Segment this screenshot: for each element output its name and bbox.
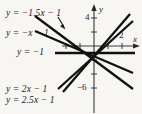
equation-label-const-neg1: y = −1 — [17, 48, 44, 58]
x-tick-label-2: 2 — [119, 31, 124, 40]
equation-label-2x-1: y = 2x − 1 — [6, 85, 47, 95]
graph-figure: 4 −6 2 y x y = −1.5x − 1 y = −x − 1 y = … — [0, 0, 142, 114]
y-axis-label: y — [99, 5, 103, 14]
leader-arrowhead-neg15x-1 — [60, 24, 65, 30]
lines-group — [35, 14, 135, 92]
equation-label-25x-1: y = 2.5x − 1 — [6, 96, 55, 106]
y-tick-label-neg6: −6 — [77, 83, 87, 92]
equation-label-negx-1: y = −x − 1 — [6, 29, 49, 39]
y-tick-label-4: 4 — [85, 13, 90, 22]
y-axis-arrowhead — [91, 4, 96, 11]
equation-label-neg15x-1: y = −1.5x − 1 — [6, 9, 61, 19]
leader-arrow-group — [58, 17, 65, 29]
x-axis-label: x — [133, 35, 137, 44]
x-axis-arrowhead — [133, 43, 140, 48]
